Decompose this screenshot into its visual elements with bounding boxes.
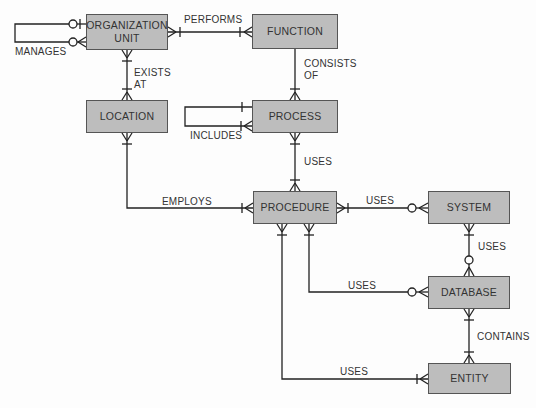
entity-function: FUNCTION <box>252 14 338 49</box>
label-process-uses: USES <box>304 156 332 168</box>
label-includes: INCLUDES <box>190 130 242 142</box>
entity-label: ORGANIZATION <box>86 19 168 32</box>
entity-label: UNIT <box>114 32 139 45</box>
manages-connector <box>15 19 86 47</box>
process-uses-procedure-connector <box>290 133 300 191</box>
label-employs: EMPLOYS <box>162 196 212 208</box>
label-system-uses-database: USES <box>478 241 506 253</box>
entity-label: LOCATION <box>100 110 155 123</box>
entity-organization-unit: ORGANIZATION UNIT <box>86 14 168 50</box>
entity-label: PROCEDURE <box>261 201 330 214</box>
entity-label: PROCESS <box>269 110 322 123</box>
label-exists-at: EXISTS AT <box>134 67 171 91</box>
includes-connector <box>185 102 252 131</box>
performs-connector <box>168 27 252 37</box>
entity-entity: ENTITY <box>428 363 511 394</box>
entity-system: SYSTEM <box>428 191 510 224</box>
label-consists-of: CONSISTS OF <box>304 58 357 82</box>
contains-connector <box>464 309 474 363</box>
entity-location: LOCATION <box>86 100 168 133</box>
entity-label: DATABASE <box>441 286 497 299</box>
system-uses-database-connector <box>464 224 474 276</box>
entity-process: PROCESS <box>252 100 338 133</box>
label-procedure-uses-entity: USES <box>340 366 368 378</box>
entity-label: ENTITY <box>450 372 489 385</box>
consists-of-connector <box>290 49 300 100</box>
label-performs: PERFORMS <box>184 14 242 26</box>
procedure-uses-entity-connector <box>277 224 428 384</box>
entity-database: DATABASE <box>428 276 510 309</box>
entity-label: SYSTEM <box>447 201 491 214</box>
entity-procedure: PROCEDURE <box>253 191 337 224</box>
entity-label: FUNCTION <box>267 25 323 38</box>
label-contains: CONTAINS <box>477 331 530 343</box>
label-procedure-uses-system: USES <box>366 195 394 207</box>
er-diagram: ORGANIZATION UNIT FUNCTION LOCATION PROC… <box>0 0 536 408</box>
exists-at-connector <box>122 50 132 100</box>
label-manages: MANAGES <box>15 46 66 58</box>
label-procedure-uses-database: USES <box>348 280 376 292</box>
